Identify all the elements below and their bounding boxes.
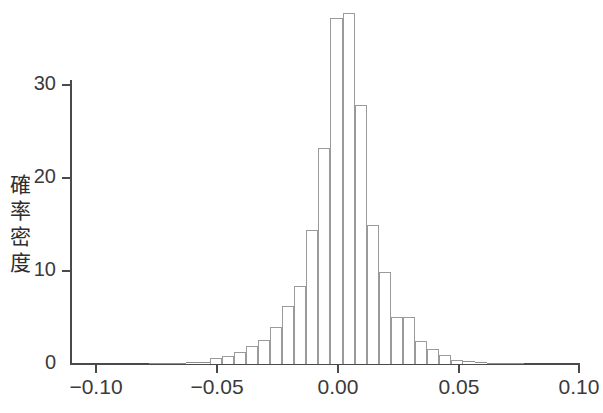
- histogram-bar: [198, 362, 210, 364]
- histogram-bar: [500, 363, 512, 364]
- histogram-bar: [451, 360, 463, 364]
- histogram-bar: [355, 105, 367, 364]
- histogram-bar: [210, 358, 222, 364]
- histogram-bars: [70, 0, 580, 364]
- y-tick-label-0: 0: [8, 351, 56, 374]
- histogram-bar: [318, 148, 330, 364]
- x-tick-label-010: 0.10: [559, 375, 600, 398]
- histogram-bar: [427, 349, 439, 364]
- histogram-bar: [306, 230, 318, 364]
- x-tick-label-n010: −0.10: [69, 375, 122, 398]
- x-tick-mark-n010: [95, 364, 97, 373]
- histogram-bar: [282, 306, 294, 364]
- x-tick-mark-010: [578, 364, 580, 373]
- histogram-bar: [475, 362, 487, 364]
- x-tick-mark-n005: [216, 364, 218, 373]
- histogram-bar: [343, 13, 355, 364]
- histogram-bar: [246, 346, 258, 364]
- y-axis-title: 確率密度: [6, 172, 34, 276]
- histogram-bar: [391, 317, 403, 364]
- histogram-bar: [161, 363, 173, 364]
- histogram-bar: [294, 286, 306, 364]
- histogram-bar: [234, 352, 246, 364]
- x-tick-label-005-wrap: 0.05: [404, 375, 514, 399]
- y-tick-label-30-wrap: 30: [8, 72, 56, 96]
- x-tick-label-n010-wrap: −0.10: [41, 375, 151, 399]
- histogram-bar: [186, 362, 198, 364]
- x-tick-label-n005-wrap: −0.05: [162, 375, 272, 399]
- x-tick-label-n005: −0.05: [190, 375, 243, 398]
- histogram-bar: [270, 327, 282, 364]
- histogram-bar: [403, 317, 415, 364]
- x-tick-label-010-wrap: 0.10: [524, 375, 603, 399]
- histogram-bar: [512, 363, 524, 364]
- histogram-bar: [463, 361, 475, 364]
- histogram-bar: [173, 363, 185, 364]
- y-tick-label-30: 30: [8, 72, 56, 95]
- y-tick-label-0-wrap: 0: [8, 351, 56, 375]
- histogram-bar: [367, 225, 379, 365]
- x-tick-mark-005: [458, 364, 460, 373]
- histogram-bar: [487, 363, 499, 364]
- histogram-bar: [149, 363, 161, 364]
- histogram-bar: [439, 355, 451, 364]
- x-tick-mark-000: [337, 364, 339, 373]
- x-tick-label-000: 0.00: [318, 375, 359, 398]
- histogram-bar: [379, 272, 391, 364]
- x-tick-label-000-wrap: 0.00: [283, 375, 393, 399]
- histogram-bar: [415, 341, 427, 364]
- histogram-bar: [258, 340, 270, 364]
- histogram-bar: [330, 18, 342, 364]
- histogram-figure: 30 20 10 0 確率密度 −0.10 −0.05 0.00 0.05 0.…: [0, 0, 603, 413]
- x-tick-label-005: 0.05: [439, 375, 480, 398]
- histogram-bar: [222, 356, 234, 364]
